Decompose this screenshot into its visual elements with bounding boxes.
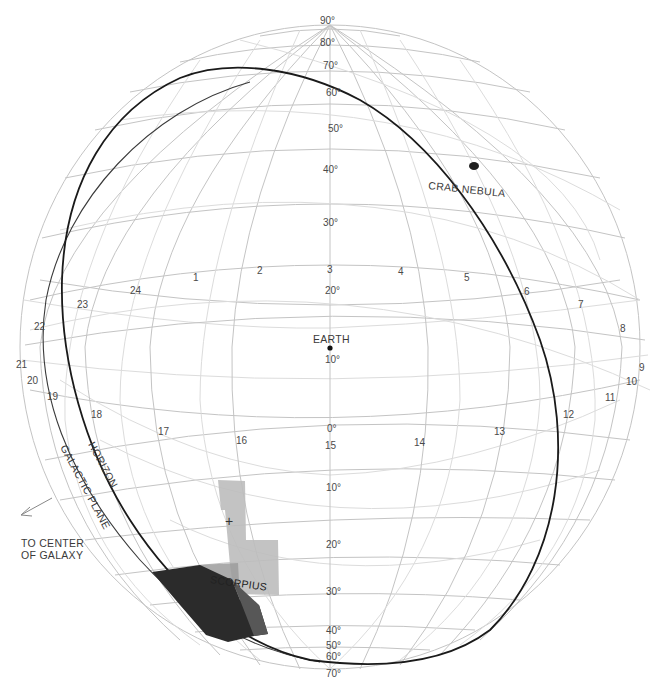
declination-label-0: 0° (327, 424, 337, 434)
hour-label-19: 19 (47, 392, 58, 402)
declination-label-30: 30° (323, 218, 338, 228)
hour-label-2: 2 (257, 266, 263, 276)
galaxy-center-label-line2: OF GALAXY (21, 550, 83, 561)
hour-label-9: 9 (639, 363, 645, 373)
declination-label-minus40: 40° (326, 626, 341, 636)
hour-label-16: 16 (236, 436, 247, 446)
hour-label-23: 23 (77, 300, 88, 310)
declination-label-10: 10° (325, 355, 340, 365)
declination-label-minus30: 30° (326, 587, 341, 597)
hour-label-20: 20 (27, 376, 38, 386)
earth-label: EARTH (313, 334, 350, 345)
earth-marker (327, 345, 332, 350)
declination-label-minus70: 70° (326, 669, 341, 679)
crab-nebula-marker (469, 162, 479, 170)
hour-label-10: 10 (626, 377, 637, 387)
declination-label-minus50: 50° (326, 641, 341, 651)
hour-label-11: 11 (605, 393, 615, 403)
declination-label-80: 80° (320, 38, 335, 48)
hour-label-24: 24 (130, 286, 141, 296)
galaxy-center-label-line1: TO CENTER (21, 538, 84, 549)
scorpius-region (152, 480, 279, 642)
celestial-sphere-diagram: 90° 80° 70° 60° 50° 40° 30° 20° 10° 0° 1… (0, 0, 658, 687)
hour-label-8: 8 (620, 324, 626, 334)
hour-label-14: 14 (414, 438, 425, 448)
hour-label-5: 5 (464, 273, 470, 283)
declination-label-40: 40° (323, 165, 338, 175)
hour-label-22: 22 (34, 322, 45, 332)
hour-label-17: 17 (158, 427, 169, 437)
hour-label-12: 12 (563, 410, 574, 420)
declination-label-50: 50° (328, 124, 343, 134)
hour-label-13: 13 (494, 427, 505, 437)
declination-label-minus10: 10° (326, 483, 341, 493)
horizon-line (62, 68, 558, 665)
hour-label-15: 15 (325, 441, 336, 451)
declination-label-90: 90° (320, 16, 335, 26)
hour-label-1: 1 (193, 273, 199, 283)
hour-label-6: 6 (524, 287, 530, 297)
hour-label-7: 7 (578, 300, 584, 310)
cross-marker-icon: + (225, 514, 233, 528)
declination-label-20: 20° (325, 286, 340, 296)
hour-label-18: 18 (91, 410, 102, 420)
hour-label-3: 3 (327, 265, 333, 275)
hour-meridians (30, 25, 650, 669)
declination-label-minus60: 60° (326, 652, 341, 662)
hour-label-21: 21 (16, 360, 27, 370)
declination-label-70: 70° (323, 61, 338, 71)
galaxy-center-arrow (21, 498, 52, 516)
hour-label-4: 4 (398, 267, 404, 277)
declination-label-minus20: 20° (326, 540, 341, 550)
declination-label-60: 60° (326, 88, 341, 98)
